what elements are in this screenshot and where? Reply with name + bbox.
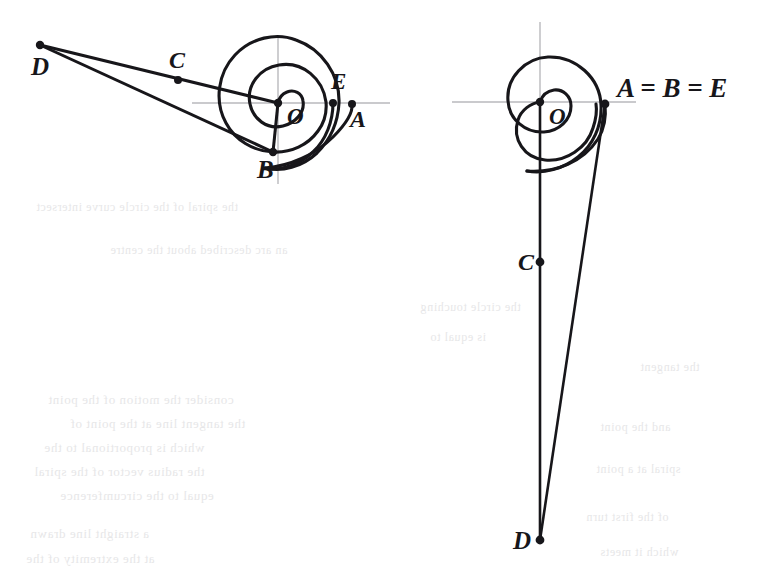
right-label-C: C [518, 249, 535, 275]
left-label-B: B [256, 156, 274, 183]
right-point-D-dot [536, 536, 545, 545]
right-spiral-diagram: O A = B = E C D [452, 22, 727, 554]
right-label-A-equals-B-equals-E: A = B = E [615, 73, 727, 103]
right-point-ABE-dot [601, 100, 610, 109]
geometry-figure-canvas: D C O B E A O A = B = E C D [0, 0, 780, 577]
left-label-A: A [348, 106, 366, 132]
left-point-O-dot [274, 99, 282, 107]
figure-root: D C O B E A O A = B = E C D [0, 0, 780, 577]
right-label-O: O [549, 104, 566, 129]
left-point-B-dot [269, 148, 277, 156]
left-segment-D-to-O [40, 45, 278, 103]
left-label-D: D [30, 53, 49, 80]
left-point-C-dot [174, 76, 182, 84]
right-point-O-dot [536, 98, 544, 106]
left-point-E-dot [329, 99, 337, 107]
left-segment-D-to-B [40, 45, 273, 152]
left-label-E: E [330, 69, 346, 94]
left-label-C: C [169, 47, 186, 73]
left-spiral-diagram: D C O B E A [30, 36, 390, 184]
right-point-C-dot [536, 258, 545, 267]
right-label-D: D [512, 527, 531, 554]
left-label-O: O [287, 104, 304, 129]
left-point-D-dot [36, 41, 44, 49]
